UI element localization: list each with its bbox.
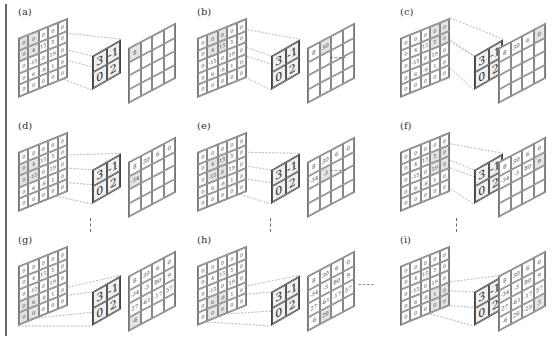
output-matrix: 830 [307, 22, 355, 104]
kernel-matrix: 3-102 [271, 275, 300, 326]
horizontal-ellipsis-gh-i: ---- [358, 279, 375, 289]
input-cell: 0 [237, 294, 246, 309]
input-matrix: 000000415500-15019006-81000000 [197, 18, 247, 98]
panel-label: (i) [400, 234, 411, 245]
output-matrix: 83060-34-380927-61-1757-626-253 [498, 250, 546, 332]
input-cell: 0 [218, 187, 227, 202]
kernel-matrix: 3-102 [92, 275, 121, 326]
panel-label: (a) [18, 6, 32, 17]
input-cell: 0 [198, 309, 207, 324]
horizontal-ellipsis-ab-c: ---- [330, 52, 347, 62]
input-cell: 0 [440, 180, 449, 195]
input-cell: 0 [19, 195, 28, 210]
output-matrix: 83060 [498, 22, 546, 104]
input-cell: 0 [207, 191, 217, 207]
output-matrix: 83060-34-3809 [498, 136, 546, 218]
input-cell: 0 [227, 297, 236, 312]
input-cell: 0 [410, 305, 420, 321]
input-cell: 0 [48, 297, 57, 312]
input-cell: 0 [410, 191, 420, 207]
input-cell: 0 [198, 195, 207, 210]
input-cell: 0 [207, 305, 217, 321]
input-matrix: 000000415500-15019006-81000000 [18, 132, 68, 212]
input-cell: 0 [410, 77, 420, 93]
input-cell: 0 [440, 294, 449, 309]
output-matrix: 8 [128, 22, 176, 104]
output-matrix: 83060-34 [128, 136, 176, 218]
input-cell: 0 [430, 69, 439, 84]
input-cell: 0 [198, 81, 207, 96]
input-cell: 0 [218, 301, 227, 316]
input-cell: 0 [401, 195, 410, 210]
kernel-matrix: 3-102 [271, 39, 300, 90]
input-matrix: 000000415500-15019006-81000000 [400, 18, 450, 98]
input-matrix: 000000415500-15019006-81000000 [18, 18, 68, 98]
horizontal-ellipsis-de-f: ---- [330, 165, 347, 175]
panel-label: (d) [18, 120, 32, 131]
panel-f: (f)000000415500-15019006-810000003-10283… [372, 118, 552, 230]
input-cell: 0 [19, 309, 28, 324]
input-cell: 0 [430, 183, 439, 198]
input-cell: 0 [227, 69, 236, 84]
input-cell: 0 [39, 73, 48, 88]
input-cell: 0 [227, 183, 236, 198]
kernel-matrix: 3-102 [92, 39, 121, 90]
vertical-ellipsis-d-g [90, 218, 93, 232]
panel-label: (f) [400, 120, 412, 131]
input-cell: 0 [237, 66, 246, 81]
input-cell: 0 [430, 297, 439, 312]
input-cell: 0 [39, 187, 48, 202]
panel-label: (g) [18, 234, 32, 245]
left-margin-bar [5, 4, 7, 336]
input-cell: 0 [28, 191, 38, 207]
vertical-ellipsis-f-i [456, 218, 459, 232]
kernel-matrix: 3-102 [271, 153, 300, 204]
vertical-ellipsis-e-h [270, 218, 273, 232]
panel-label: (b) [197, 6, 211, 17]
panel-label: (e) [197, 120, 211, 131]
input-cell: 0 [28, 77, 38, 93]
input-cell: 0 [207, 77, 217, 93]
panel-c: (c)000000415500-15019006-810000003-10283… [372, 4, 552, 116]
output-matrix: 83060-34-380927-61-1757-626 [307, 250, 355, 332]
input-cell: 0 [218, 73, 227, 88]
input-cell: 0 [58, 66, 67, 81]
input-matrix: 000000415500-15019006-81000000 [400, 246, 450, 326]
output-matrix: 83060-34-3 [307, 136, 355, 218]
panel-label: (h) [197, 234, 211, 245]
input-cell: 0 [58, 180, 67, 195]
panel-a: (a)000000415500-15019006-810000003-1028 [8, 4, 188, 116]
input-matrix: 000000415500-15019006-81000000 [197, 246, 247, 326]
input-matrix: 000000415500-15019006-81000000 [400, 132, 450, 212]
input-cell: 0 [401, 309, 410, 324]
input-cell: 0 [421, 73, 430, 88]
panel-label: (c) [400, 6, 413, 17]
input-cell: 0 [421, 301, 430, 316]
input-cell: 0 [28, 305, 38, 321]
input-cell: 0 [237, 180, 246, 195]
panel-h: (h)000000415500-15019006-810000003-10283… [187, 232, 367, 342]
panel-d: (d)000000415500-15019006-810000003-10283… [8, 118, 188, 230]
input-cell: 0 [19, 81, 28, 96]
input-cell: 0 [421, 187, 430, 202]
input-cell: 0 [48, 69, 57, 84]
panel-i: (i)000000415500-15019006-810000003-10283… [372, 232, 552, 342]
output-matrix: 83060-34-380927-61-1757-6 [128, 250, 176, 332]
panel-g: (g)000000415500-15019006-810000003-10283… [8, 232, 188, 342]
input-matrix: 000000415500-15019006-81000000 [18, 246, 68, 326]
input-cell: 0 [39, 301, 48, 316]
kernel-matrix: 3-102 [92, 153, 121, 204]
input-cell: 0 [401, 81, 410, 96]
input-cell: 0 [48, 183, 57, 198]
input-matrix: 000000415500-15019006-81000000 [197, 132, 247, 212]
input-cell: 0 [440, 66, 449, 81]
input-cell: 0 [58, 294, 67, 309]
